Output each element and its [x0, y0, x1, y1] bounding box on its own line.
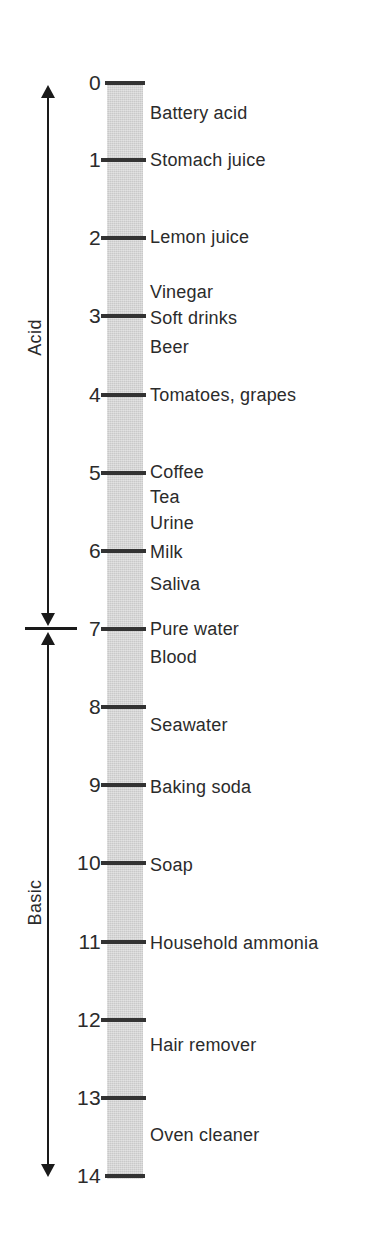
basic-axis-line	[47, 644, 49, 1167]
substance-label-battery-acid: Battery acid	[150, 104, 247, 122]
acid-axis-line	[47, 97, 49, 618]
substance-label-baking-soda: Baking soda	[150, 778, 251, 796]
substance-label-lemon-juice: Lemon juice	[150, 228, 249, 246]
tick-mark-2	[101, 236, 146, 240]
tick-label-7: 7	[55, 618, 101, 639]
substance-label-tea: Tea	[150, 488, 180, 506]
tick-mark-7	[101, 627, 146, 631]
substance-label-seawater: Seawater	[150, 716, 228, 734]
tick-label-9: 9	[55, 774, 101, 795]
substance-label-soft-drinks: Soft drinks	[150, 309, 237, 327]
tick-mark-1	[101, 158, 146, 162]
tick-mark-10	[101, 861, 146, 865]
substance-label-stomach-juice: Stomach juice	[150, 151, 266, 169]
tick-label-4: 4	[55, 384, 101, 405]
tick-mark-4	[101, 393, 146, 397]
tick-mark-12	[101, 1018, 146, 1022]
substance-label-urine: Urine	[150, 514, 194, 532]
tick-label-12: 12	[55, 1009, 101, 1030]
substance-label-soap: Soap	[150, 856, 193, 874]
region-label-basic: Basic	[25, 870, 46, 936]
substance-label-coffee: Coffee	[150, 463, 204, 481]
tick-label-2: 2	[55, 227, 101, 248]
tick-label-14: 14	[55, 1165, 101, 1186]
region-label-acid: Acid	[25, 307, 46, 369]
substance-label-saliva: Saliva	[150, 575, 200, 593]
acid-arrow-tail-icon	[41, 613, 55, 626]
tick-label-0: 0	[55, 72, 101, 93]
tick-label-5: 5	[55, 462, 101, 483]
tick-mark-3	[101, 314, 146, 318]
tick-mark-13	[101, 1096, 146, 1100]
tick-mark-6	[101, 549, 146, 553]
ph-scale-figure: Acid Basic 0 1 2 3 4 5 6 7 8 9 10 11 12 …	[0, 0, 373, 1237]
tick-label-1: 1	[55, 149, 101, 170]
substance-label-oven-cleaner: Oven cleaner	[150, 1126, 259, 1144]
substance-label-milk: Milk	[150, 543, 183, 561]
substance-label-tomatoes-grapes: Tomatoes, grapes	[150, 386, 296, 404]
substance-label-beer: Beer	[150, 338, 189, 356]
tick-mark-8	[101, 705, 146, 709]
tick-mark-9	[101, 783, 146, 787]
ph-scale-bar	[107, 83, 143, 1179]
tick-mark-5	[101, 471, 146, 475]
substance-label-pure-water: Pure water	[150, 620, 239, 638]
basic-arrow-tail-icon	[41, 1164, 55, 1177]
substance-label-household-ammonia: Household ammonia	[150, 934, 319, 952]
substance-label-vinegar: Vinegar	[150, 283, 213, 301]
tick-label-13: 13	[55, 1087, 101, 1108]
tick-label-10: 10	[55, 852, 101, 873]
tick-label-11: 11	[55, 931, 101, 952]
tick-mark-11	[101, 940, 146, 944]
substance-label-hair-remover: Hair remover	[150, 1036, 256, 1054]
tick-mark-0	[105, 81, 145, 85]
substance-label-blood: Blood	[150, 648, 197, 666]
tick-mark-14	[105, 1174, 145, 1178]
tick-label-3: 3	[55, 305, 101, 326]
tick-label-8: 8	[55, 696, 101, 717]
tick-label-6: 6	[55, 540, 101, 561]
